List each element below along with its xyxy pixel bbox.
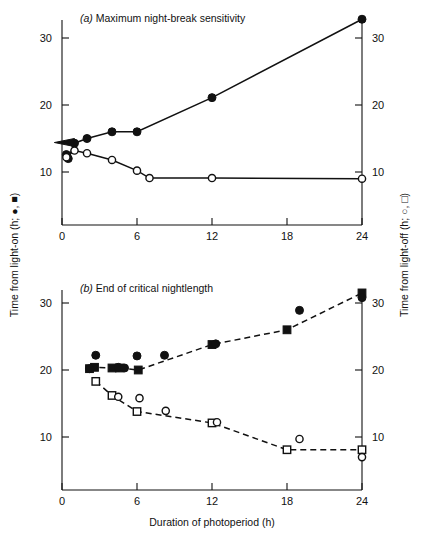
data-point-filled-circle [133,128,141,136]
panel-a-xticklabel-12: 12 [206,230,218,242]
data-point-filled-circle [83,135,91,143]
data-point-filled-circle [212,340,220,348]
panel-a-yticklabel-30: 30 [40,32,52,44]
data-point-open-circle [358,454,365,461]
data-point-filled-circle [92,351,100,359]
panel-b-yticklabel-right-10: 10 [372,431,384,443]
data-point-open-circle [358,175,365,182]
panel-b-yticklabel-10: 10 [40,431,52,443]
data-point-open-circle [136,395,143,402]
data-point-filled-circle [121,364,129,372]
data-point-open-circle [208,174,215,181]
panel-a: 10203010203006121824(a) Maximum night-br… [40,12,385,242]
data-point-open-square [358,446,365,453]
panel-a-yticklabel-right-10: 10 [372,166,384,178]
data-point-open-circle [108,156,115,163]
data-point-open-circle [146,174,153,181]
panel-b-letter: (b) [80,282,93,294]
panel-b-series-3 [115,393,366,461]
panel-a-yticklabel-right-30: 30 [372,32,384,44]
panel-b: 10203010203006121824(b) End of critical … [40,282,385,507]
data-point-filled-square [134,366,142,374]
panel-a-xticklabel-18: 18 [281,230,293,242]
data-point-open-circle [63,154,70,161]
panel-b-series-1 [86,294,367,373]
data-point-filled-circle [86,365,94,373]
panel-a-xticklabel-0: 0 [59,230,65,242]
panel-a-series-1 [63,147,366,182]
data-point-open-square [133,408,140,415]
data-point-open-circle [83,150,90,157]
panel-a-series-0 [62,15,366,162]
data-point-filled-circle [161,351,169,359]
panel-b-yticklabel-20: 20 [40,364,52,376]
panel-b-series-0-line [90,293,363,370]
data-point-filled-circle [133,352,141,360]
arrow-head-icon [54,139,74,147]
panel-b-title-text: End of critical nightlength [93,282,213,294]
panel-b-xticklabel-0: 0 [59,495,65,507]
data-point-open-square [283,446,290,453]
data-point-open-circle [296,435,303,442]
figure-container: 10203010203006121824(a) Maximum night-br… [0,0,422,541]
data-point-open-circle [115,393,122,400]
data-point-open-square [92,378,99,385]
data-point-filled-circle [358,294,366,302]
panel-b-xticklabel-6: 6 [134,495,140,507]
panel-b-yticklabel-right-20: 20 [372,364,384,376]
panel-a-yticklabel-20: 20 [40,99,52,111]
panel-b-xticklabel-18: 18 [281,495,293,507]
panel-b-xticklabel-12: 12 [206,495,218,507]
data-point-filled-square [283,326,291,334]
right-axis-title: Time from light-off (h; ○, □) [398,193,410,317]
data-point-open-circle [71,147,78,154]
panel-a-series-0-line [66,19,362,158]
data-point-filled-circle [296,306,304,314]
data-point-open-circle [133,167,140,174]
bottom-axis-title: Duration of photoperiod (h) [149,516,275,528]
panel-b-yticklabel-right-30: 30 [372,297,384,309]
data-point-filled-circle [208,94,216,102]
panel-a-xticklabel-24: 24 [356,230,368,242]
data-point-filled-circle [108,128,116,136]
panel-a-title: (a) Maximum night-break sensitivity [80,12,246,24]
data-point-open-circle [162,407,169,414]
panel-b-xticklabel-24: 24 [356,495,368,507]
panel-a-title-text: Maximum night-break sensitivity [93,12,246,24]
left-axis-title: Time from light-on (h; ●, ■) [8,193,20,317]
data-point-filled-circle [358,15,366,23]
photoperiod-figure: 10203010203006121824(a) Maximum night-br… [0,0,422,541]
panel-a-annotation-arrow-0 [54,139,74,147]
panel-b-title: (b) End of critical nightlength [80,282,213,294]
panel-a-letter: (a) [80,12,93,24]
panel-b-series-0 [86,289,366,374]
panel-b-yticklabel-30: 30 [40,297,52,309]
panel-a-yticklabel-right-20: 20 [372,99,384,111]
panel-a-yticklabel-10: 10 [40,166,52,178]
panel-a-xticklabel-6: 6 [134,230,140,242]
data-point-open-circle [213,419,220,426]
panel-b-series-2 [92,378,366,454]
